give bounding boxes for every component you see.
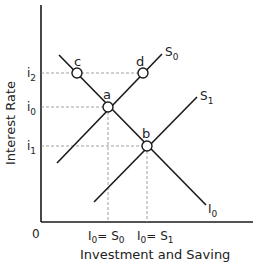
x-tick-i0-s1: I0= S1	[137, 229, 174, 245]
point-label-c: c	[74, 54, 81, 69]
y-tick-i1: i1	[27, 139, 36, 156]
y-axis-title: Interest Rate	[3, 81, 18, 165]
point-label-d: d	[136, 54, 144, 69]
point-b	[142, 141, 152, 151]
point-label-a: a	[103, 87, 111, 102]
curve-label-i0: I0	[208, 202, 218, 219]
x-tick-i0-s0: I0= S0	[88, 229, 125, 245]
investment-saving-diagram: a b c d S0 S1 I0 i2 i0 i1 0 I0= S0 I0= S…	[0, 0, 253, 263]
point-d	[138, 68, 148, 78]
curve-label-s1: S1	[200, 89, 213, 106]
investment-curve-i0	[59, 55, 206, 205]
x-axis-title: Investment and Saving	[80, 247, 230, 262]
point-c	[72, 68, 82, 78]
point-label-b: b	[142, 126, 150, 141]
curve-label-s0: S0	[165, 45, 179, 62]
point-a	[103, 102, 113, 112]
y-tick-i2: i2	[27, 66, 36, 83]
origin-label: 0	[32, 227, 40, 241]
y-tick-i0: i0	[27, 100, 36, 117]
